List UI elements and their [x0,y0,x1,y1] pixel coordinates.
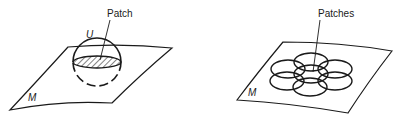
patches-label: Patches [318,8,354,19]
neighborhood-u-label: U [86,29,94,40]
figure-canvas: Patch U M Patches M [0,0,402,125]
right-panel: Patches M [237,8,392,113]
left-panel: Patch U M [10,8,172,110]
manifold-m-label-left: M [28,92,37,103]
patch-ellipses [270,53,352,96]
patches-callout-line [313,20,320,72]
patch-label: Patch [107,8,133,19]
manifold-m-label-right: M [248,87,257,98]
patch-callout-line [100,20,110,60]
patch-hatched-disk [73,56,121,68]
